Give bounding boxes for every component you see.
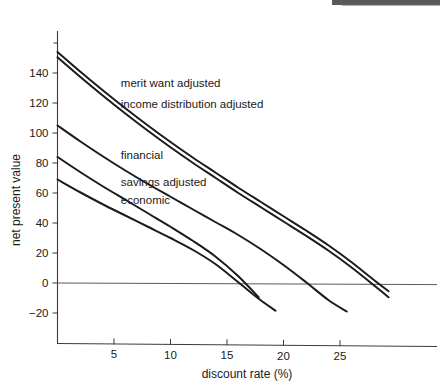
axis-titles-layer: discount rate (%) net present value: [9, 154, 292, 381]
axis-layer: [53, 31, 438, 347]
y-axis-tick-label: 20: [36, 247, 49, 259]
y-axis-tick-label: 120: [29, 97, 48, 109]
series-labels-layer: merit want adjustedincome distribution a…: [121, 77, 264, 206]
y-axis-tick-label: 60: [36, 187, 49, 199]
x-axis-tick-label: 15: [221, 349, 234, 361]
chart-figure: −20020406080100120140510152025 merit wan…: [0, 0, 440, 392]
series-label-economic: economic: [121, 194, 170, 206]
x-axis-title: discount rate (%): [202, 367, 293, 381]
y-axis-tick-label: 140: [29, 67, 48, 79]
series-curve: [58, 52, 389, 291]
series-label-income-distribution-adjusted: income distribution adjusted: [121, 98, 264, 110]
x-axis-tick-label: 20: [277, 350, 290, 362]
y-axis-tick-label: 0: [42, 277, 48, 289]
series-label-financial: financial: [121, 149, 163, 161]
scan-artifact-bar-secondary: [342, 4, 440, 6]
npv-discount-rate-line-chart: −20020406080100120140510152025 merit wan…: [0, 0, 440, 392]
x-axis-tick-label: 25: [334, 350, 347, 362]
y-axis-tick-label: −20: [29, 307, 49, 319]
series-label-merit-want-adjusted: merit want adjusted: [121, 77, 221, 89]
x-axis-tick-label: 5: [111, 348, 117, 360]
series-curves-layer: [58, 52, 389, 312]
y-axis-tick-label: 100: [29, 127, 48, 139]
y-axis-tick-label: 40: [36, 217, 49, 229]
y-axis-tick-label: 80: [36, 157, 49, 169]
series-label-savings-adjusted: savings adjusted: [121, 176, 207, 188]
tick-labels-layer: −20020406080100120140510152025: [29, 67, 346, 362]
y-axis-title: net present value: [9, 154, 23, 246]
x-axis-tick-label: 10: [164, 349, 177, 361]
